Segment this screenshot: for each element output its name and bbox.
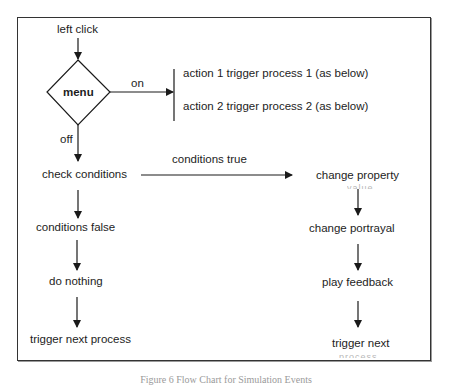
node-play-feedback: play feedback [322,276,393,289]
node-change-portrayal: change portrayal [309,222,395,235]
figure-caption: Figure 6 Flow Chart for Simulation Event… [0,374,452,385]
node-change-property-continuation: value [347,184,374,189]
node-do-nothing: do nothing [49,275,103,288]
edge-label-on: on [131,77,144,90]
node-check-conditions: check conditions [42,168,127,181]
node-left-click: left click [57,23,98,36]
edge-label-conditions-true: conditions true [172,153,247,166]
node-action-2: action 2 trigger process 2 (as below) [183,100,368,113]
node-change-property: change property [316,169,399,182]
node-action-1: action 1 trigger process 1 (as below) [183,67,368,80]
node-trigger-next-continuation: process [339,353,378,358]
node-trigger-next-process: trigger next process [30,333,131,346]
node-conditions-false: conditions false [36,221,115,234]
node-trigger-next: trigger next [332,337,390,350]
node-menu: menu [63,86,94,99]
edge-label-off: off [60,133,73,146]
